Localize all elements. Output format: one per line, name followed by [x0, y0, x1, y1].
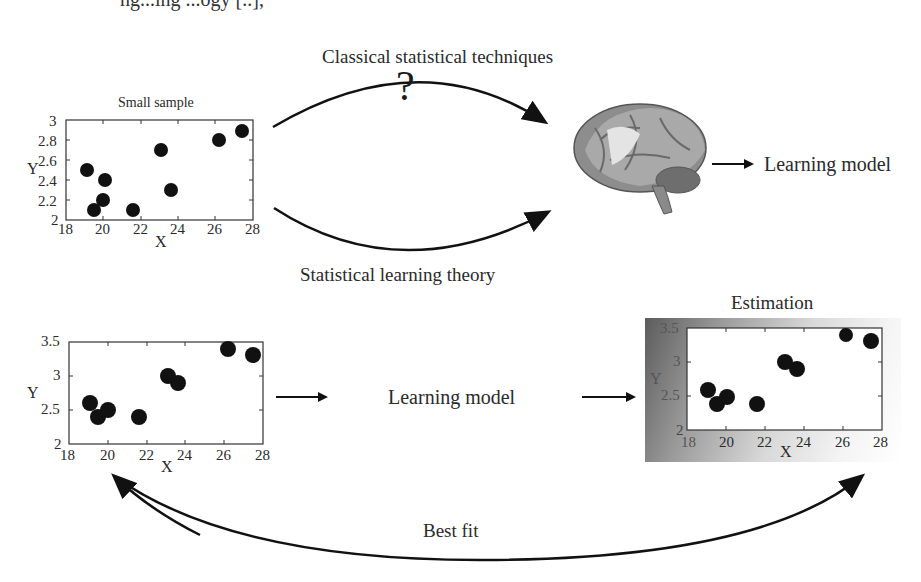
learning-model-output-label: Learning model	[764, 153, 891, 176]
plot1-xlabel: X	[155, 233, 167, 251]
plot-small-sample-points	[80, 124, 249, 217]
best-fit-label: Best fit	[423, 520, 478, 542]
plot1-ylabel: Y	[27, 160, 39, 178]
diagram-connectors	[0, 0, 921, 582]
estimation-title: Estimation	[731, 292, 813, 314]
plot2-xlabel: X	[161, 458, 173, 476]
learning-model-label: Learning model	[388, 386, 515, 409]
plot3-xlabel: X	[780, 443, 792, 461]
plot-estimation	[687, 328, 882, 430]
small-sample-title: Small sample	[118, 95, 194, 111]
plot-training-data	[69, 342, 263, 444]
classical-techniques-label: Classical statistical techniques	[322, 46, 553, 68]
plot-training-data-points	[82, 341, 261, 425]
plot2-ylabel: Y	[27, 384, 39, 402]
plot3-ylabel: Y	[650, 370, 662, 388]
question-mark: ?	[396, 62, 415, 110]
best-fit-arrow	[114, 476, 862, 560]
statistical-learning-theory-label: Statistical learning theory	[300, 264, 495, 286]
slt-arrow	[274, 208, 548, 250]
brain-icon	[574, 104, 706, 214]
